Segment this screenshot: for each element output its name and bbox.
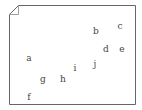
label-j: j: [94, 60, 97, 69]
label-h: h: [60, 75, 66, 84]
label-d: d: [103, 45, 109, 54]
document-page: a b c d e f g h i j: [0, 0, 142, 110]
page-outline: [0, 0, 142, 110]
label-b: b: [93, 27, 99, 36]
label-e: e: [119, 45, 124, 54]
label-f: f: [27, 93, 30, 102]
label-a: a: [26, 54, 31, 63]
label-i: i: [74, 64, 77, 73]
label-c: c: [117, 22, 122, 31]
label-g: g: [40, 75, 46, 84]
